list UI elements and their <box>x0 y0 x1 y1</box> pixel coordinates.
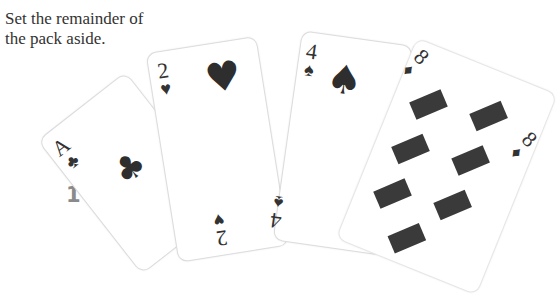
card-index-top: 4 ♠ <box>302 40 318 79</box>
diamond-icon <box>469 101 508 132</box>
card-index-right: 8 ♦ <box>507 128 541 163</box>
diamond-icon: ♦ <box>507 142 527 163</box>
spade-icon: ♠ <box>302 60 315 79</box>
instruction-line-1: Set the remainder of <box>5 9 143 29</box>
heart-icon: ♥ <box>202 54 244 99</box>
diamond-icon <box>391 134 430 165</box>
diamond-icon <box>388 223 427 254</box>
heart-icon: ♥ <box>159 79 173 98</box>
diamond-icon <box>433 190 472 221</box>
heart-icon: ♥ <box>212 210 226 229</box>
instruction-text: Set the remainder of the pack aside. <box>5 9 143 49</box>
club-icon: ♣ <box>107 145 152 191</box>
card-index-top: 2 ♥ <box>156 59 173 98</box>
card-index-top: A ♣ <box>48 134 84 174</box>
diamond-icon <box>409 89 448 120</box>
spade-icon: ♠ <box>272 193 285 212</box>
spade-icon: ♠ <box>324 57 365 102</box>
diamond-icon <box>451 145 490 176</box>
diamond-icon <box>373 178 412 209</box>
card-index-bottom: 2 ♥ <box>212 210 229 249</box>
instruction-line-2: the pack aside. <box>5 29 143 49</box>
